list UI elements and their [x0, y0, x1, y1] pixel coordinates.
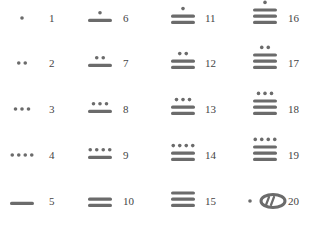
bar-icon: [253, 15, 277, 18]
dot-icon: [10, 153, 14, 157]
numeral-label: 18: [288, 103, 300, 115]
dot-icon: [98, 11, 102, 15]
bar-icon: [171, 112, 195, 115]
numeral-15: 15: [171, 191, 217, 207]
numeral-label: 8: [123, 103, 129, 115]
bar-icon: [88, 198, 112, 201]
dot-icon: [178, 144, 182, 148]
dot-icon: [20, 16, 24, 20]
numeral-2: 2: [17, 57, 55, 69]
dot-icon: [23, 61, 27, 65]
bar-icon: [171, 106, 195, 109]
bar-icon: [171, 191, 195, 194]
bar-icon: [253, 152, 277, 155]
numeral-label: 15: [205, 195, 217, 207]
bar-icon: [88, 110, 112, 113]
numeral-13: 13: [171, 98, 217, 115]
numeral-4: 4: [10, 149, 55, 161]
bar-icon: [253, 60, 277, 63]
dot-icon: [257, 92, 261, 96]
bar-icon: [253, 99, 277, 102]
numeral-label: 7: [123, 57, 129, 69]
dot-icon: [270, 92, 274, 96]
maya-numerals-diagram: 1234567891011121314151617181920: [0, 0, 322, 228]
dot-icon: [108, 148, 112, 152]
dot-icon: [263, 1, 267, 5]
numeral-10: 10: [88, 195, 135, 207]
numeral-label: 20: [288, 195, 300, 207]
numeral-20: 20: [248, 195, 299, 208]
dot-icon: [248, 199, 252, 203]
bar-icon: [171, 158, 195, 161]
numeral-3: 3: [14, 103, 55, 115]
numeral-9: 9: [88, 148, 129, 161]
numeral-label: 19: [288, 149, 300, 161]
numeral-label: 17: [288, 57, 300, 69]
numeral-label: 6: [123, 12, 129, 24]
dot-icon: [266, 46, 270, 50]
dot-icon: [191, 144, 195, 148]
dot-icon: [181, 7, 185, 11]
numeral-5: 5: [10, 195, 55, 207]
bar-icon: [171, 21, 195, 24]
numeral-1: 1: [20, 12, 54, 24]
numeral-label: 9: [123, 149, 129, 161]
dot-icon: [88, 148, 92, 152]
numeral-label: 5: [49, 195, 55, 207]
dot-icon: [188, 98, 192, 102]
dot-icon: [184, 52, 188, 56]
dot-icon: [92, 102, 96, 106]
numeral-14: 14: [171, 144, 217, 161]
dot-icon: [273, 138, 277, 142]
dot-icon: [95, 56, 99, 60]
bar-icon: [171, 60, 195, 63]
numeral-12: 12: [171, 52, 216, 69]
bar-icon: [253, 53, 277, 56]
bar-icon: [171, 204, 195, 207]
dot-icon: [30, 153, 34, 157]
numeral-11: 11: [171, 7, 216, 24]
bar-icon: [171, 152, 195, 155]
numeral-label: 11: [205, 12, 216, 24]
numeral-label: 2: [49, 57, 55, 69]
numeral-label: 10: [123, 195, 135, 207]
bar-icon: [88, 19, 112, 22]
numeral-19: 19: [253, 138, 300, 161]
bar-icon: [253, 8, 277, 11]
dot-icon: [260, 138, 264, 142]
bar-icon: [88, 64, 112, 67]
dot-icon: [14, 107, 18, 111]
dot-icon: [181, 98, 185, 102]
dot-icon: [253, 138, 257, 142]
bar-icon: [253, 158, 277, 161]
dot-icon: [175, 98, 179, 102]
numeral-label: 3: [49, 103, 55, 115]
dot-icon: [98, 102, 102, 106]
numeral-8: 8: [88, 102, 129, 115]
dot-icon: [105, 102, 109, 106]
dot-icon: [101, 56, 105, 60]
dot-icon: [178, 52, 182, 56]
bar-icon: [88, 204, 112, 207]
dot-icon: [260, 46, 264, 50]
numeral-label: 14: [205, 149, 217, 161]
bar-icon: [253, 106, 277, 109]
dot-icon: [101, 148, 105, 152]
dot-icon: [17, 61, 21, 65]
numeral-label: 4: [49, 149, 55, 161]
dot-icon: [266, 138, 270, 142]
bar-icon: [171, 66, 195, 69]
dot-icon: [95, 148, 99, 152]
bar-icon: [253, 112, 277, 115]
numeral-17: 17: [253, 46, 300, 69]
dot-icon: [263, 92, 267, 96]
numeral-label: 1: [49, 12, 55, 24]
shell-icon: [261, 195, 285, 208]
bar-icon: [10, 202, 34, 205]
dot-icon: [20, 107, 24, 111]
dot-icon: [184, 144, 188, 148]
dot-icon: [17, 153, 21, 157]
bar-icon: [253, 66, 277, 69]
numeral-7: 7: [88, 56, 129, 69]
bar-icon: [171, 15, 195, 18]
